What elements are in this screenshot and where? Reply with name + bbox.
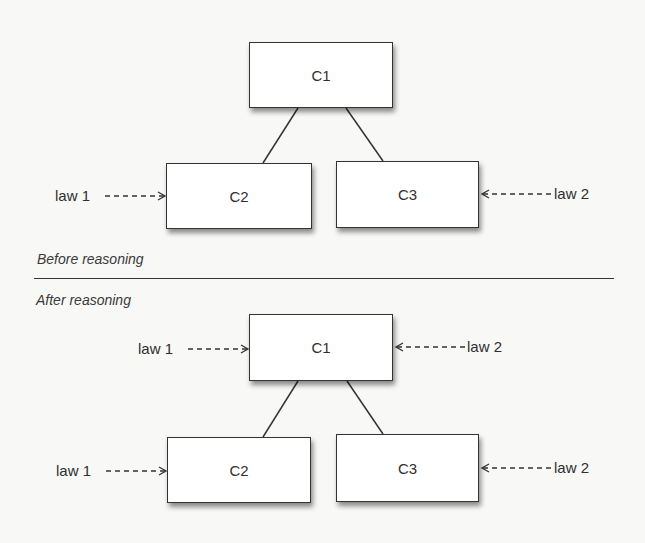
node-label: C2 [229, 462, 248, 479]
node-c1-before: C1 [249, 42, 393, 108]
edge-c1-c2-before [263, 108, 298, 163]
caption-before: Before reasoning [37, 251, 144, 267]
node-c2-before: C2 [166, 163, 312, 229]
edge-c1-c2-after [263, 381, 298, 437]
node-label: C3 [398, 460, 417, 477]
edge-c1-c3-before [346, 108, 383, 161]
law2-label-before: law 2 [554, 185, 589, 203]
node-label: C1 [311, 67, 330, 84]
node-c2-after: C2 [167, 437, 311, 503]
section-divider [34, 278, 614, 279]
caption-after: After reasoning [36, 292, 131, 308]
node-c3-before: C3 [336, 161, 479, 228]
law2-label-c3-after: law 2 [554, 459, 589, 477]
law1-label-c2-after: law 1 [56, 462, 91, 480]
law1-label-c1-after: law 1 [138, 340, 173, 358]
node-c1-after: C1 [249, 314, 393, 381]
law1-label-before: law 1 [55, 187, 90, 205]
node-label: C3 [398, 186, 417, 203]
node-c3-after: C3 [336, 434, 479, 502]
edge-c1-c3-after [347, 381, 383, 434]
law2-label-c1-after: law 2 [467, 338, 502, 356]
node-label: C1 [311, 339, 330, 356]
node-label: C2 [229, 188, 248, 205]
